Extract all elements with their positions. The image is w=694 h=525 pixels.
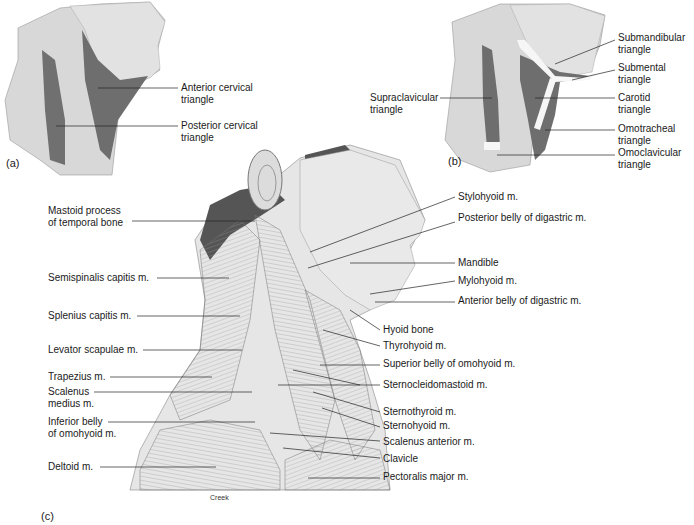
label-posterior-belly-digastric: Posterior belly of digastric m. — [458, 212, 586, 224]
label-semispinalis-capitis: Semispinalis capitis m. — [48, 272, 149, 284]
label-sternocleidomastoid: Sternocleidomastoid m. — [383, 379, 488, 391]
label-sternohyoid: Sternohyoid m. — [383, 420, 450, 432]
label-carotid-triangle: Carotid triangle — [618, 92, 651, 116]
label-levator-scapulae: Levator scapulae m. — [48, 344, 138, 356]
label-anterior-belly-digastric: Anterior belly of digastric m. — [458, 295, 581, 307]
label-mylohyoid: Mylohyoid m. — [458, 275, 517, 287]
label-inferior-belly-omohyoid: Inferior belly of omohyoid m. — [48, 416, 116, 440]
label-supraclavicular-triangle: Supraclavicular triangle — [370, 92, 438, 116]
label-mandible: Mandible — [458, 257, 499, 269]
label-anterior-cervical-triangle: Anterior cervical triangle — [181, 82, 253, 106]
label-splenius-capitis: Splenius capitis m. — [48, 310, 131, 322]
label-scalenus-anterior: Scalenus anterior m. — [383, 436, 475, 448]
label-mastoid-process: Mastoid process of temporal bone — [48, 205, 123, 229]
leader-hyoid — [350, 310, 380, 330]
label-trapezius: Trapezius m. — [48, 371, 105, 383]
label-omotracheal-triangle: Omotracheal triangle — [618, 123, 675, 147]
label-superior-belly-omohyoid: Superior belly of omohyoid m. — [383, 358, 515, 370]
label-deltoid: Deltoid m. — [48, 461, 93, 473]
artist-credit: Creek — [210, 494, 229, 501]
panel-c-neck-drawing — [130, 145, 425, 490]
label-submandibular-triangle: Submandibular triangle — [618, 32, 685, 56]
panel-letter-b: (b) — [448, 155, 461, 167]
panel-letter-a: (a) — [6, 157, 19, 169]
panel-b-neck-drawing — [445, 4, 605, 172]
label-posterior-cervical-triangle: Posterior cervical triangle — [181, 120, 258, 144]
label-stylohyoid: Stylohyoid m. — [458, 191, 518, 203]
panel-a-neck-drawing — [5, 2, 165, 175]
label-omoclavicular-triangle: Omoclavicular triangle — [618, 147, 681, 171]
label-thyrohyoid: Thyrohyoid m. — [383, 340, 446, 352]
panel-c-deltoid — [140, 420, 280, 490]
panel-b-omohyoid-inferior-band — [484, 142, 500, 150]
label-hyoid-bone: Hyoid bone — [383, 324, 434, 336]
label-sternothyroid: Sternothyroid m. — [383, 406, 456, 418]
label-scalenus-medius: Scalenus medius m. — [48, 386, 94, 410]
anatomy-illustration — [0, 0, 694, 525]
label-pectoralis-major: Pectoralis major m. — [383, 471, 469, 483]
label-submental-triangle: Submental triangle — [618, 62, 666, 86]
panel-letter-c: (c) — [41, 510, 54, 522]
label-clavicle: Clavicle — [383, 453, 418, 465]
